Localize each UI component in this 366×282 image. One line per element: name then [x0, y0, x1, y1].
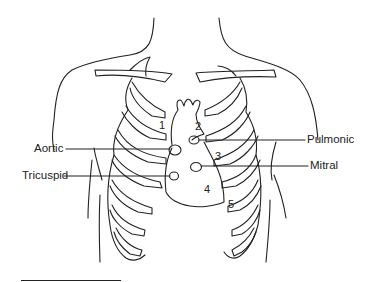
pulmonic-valve [189, 136, 199, 144]
area-number-3: 3 [215, 151, 221, 162]
flank-right [271, 142, 286, 218]
rib-right-4 [222, 155, 260, 188]
mitral-valve [191, 163, 202, 172]
footnote-rule [21, 280, 121, 281]
label-tricuspid: Tricuspid [22, 170, 68, 182]
area-number-1: 1 [159, 120, 165, 131]
ribcage-right [224, 78, 261, 258]
label-mitral: Mitral [310, 160, 338, 172]
waist-left [99, 195, 100, 262]
area-number-2: 2 [195, 121, 201, 132]
rib-left-6 [110, 205, 145, 236]
area-number-4: 4 [204, 184, 210, 195]
scapula-left [130, 57, 150, 76]
clavicle-left [95, 70, 172, 82]
label-aortic: Aortic [34, 143, 63, 155]
neck-left [53, 18, 155, 150]
rib-left-3 [115, 130, 166, 164]
area-number-5: 5 [228, 199, 234, 210]
rib-left-5 [110, 180, 152, 214]
rib-right-1 [205, 82, 242, 116]
rib-left-4 [112, 155, 162, 188]
tricuspid-valve [170, 172, 179, 180]
waist-right [266, 200, 270, 262]
label-pulmonic: Pulmonic [307, 134, 354, 146]
rib-right-2 [206, 106, 250, 142]
rib-left-1 [130, 82, 165, 118]
